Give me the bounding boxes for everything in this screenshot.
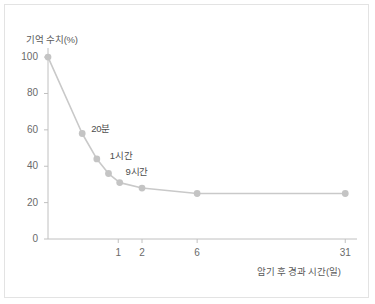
data-point-marker	[105, 170, 112, 177]
chart-frame: 기억 수치(%) 암기 후 경과 시간(일) 020406080100 1263…	[4, 4, 369, 298]
y-tick-label-60: 60	[14, 124, 38, 135]
y-tick-label-20: 20	[14, 197, 38, 208]
y-tick-label-80: 80	[14, 87, 38, 98]
annotation-3: 9시간	[125, 164, 148, 178]
y-tick-label-40: 40	[14, 160, 38, 171]
y-tick-label-100: 100	[14, 51, 38, 62]
x-tick-label-1: 1	[109, 247, 127, 258]
axes-group	[48, 48, 357, 239]
y-tick-label-0: 0	[14, 233, 38, 244]
data-point-marker	[139, 185, 146, 192]
x-tick-marks	[118, 239, 345, 243]
x-tick-label-31: 31	[336, 247, 354, 258]
annotation-1: 20분	[91, 121, 110, 135]
data-point-marker	[45, 54, 52, 61]
data-point-marker	[93, 156, 100, 163]
data-point-marker	[194, 190, 201, 197]
data-point-marker	[116, 179, 123, 186]
y-tick-marks	[44, 57, 48, 239]
y-axis-title: 기억 수치(%)	[26, 32, 78, 46]
x-tick-label-2: 2	[133, 247, 151, 258]
x-tick-label-6: 6	[188, 247, 206, 258]
annotation-2: 1시간	[110, 148, 133, 162]
chart-screenshot: 기억 수치(%) 암기 후 경과 시간(일) 020406080100 1263…	[0, 0, 375, 304]
x-axis-title: 암기 후 경과 시간(일)	[257, 264, 341, 278]
data-point-marker	[342, 190, 349, 197]
data-point-marker	[79, 130, 86, 137]
